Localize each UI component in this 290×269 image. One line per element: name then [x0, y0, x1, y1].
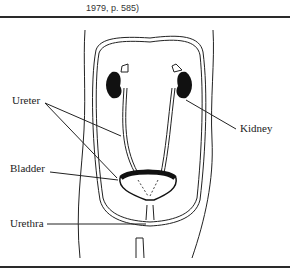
- bottom-rule: [0, 266, 290, 268]
- label-urethra: Urethra: [10, 217, 44, 229]
- bladder-leader: [50, 172, 118, 180]
- kidney-leader: [186, 100, 236, 129]
- body-outline-right: [192, 30, 213, 258]
- label-ureter: Ureter: [12, 94, 40, 106]
- urethra: [146, 205, 154, 220]
- ureter-left: [123, 88, 138, 178]
- kidney-right: [176, 72, 192, 99]
- label-bladder: Bladder: [10, 162, 45, 174]
- kidney-left: [106, 72, 122, 99]
- label-kidney: Kidney: [240, 122, 272, 134]
